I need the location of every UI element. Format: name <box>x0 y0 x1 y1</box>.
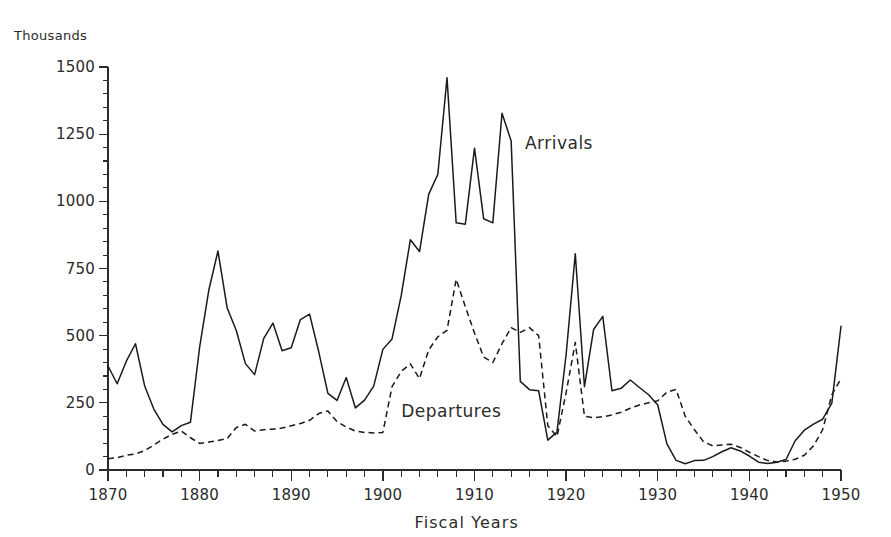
y-tick-label: 1250 <box>25 125 95 143</box>
x-tick-label: 1920 <box>526 486 606 504</box>
immigration-chart-figure: Thousands 0250500750100012501500 1870188… <box>0 0 891 537</box>
chart-plot-area <box>0 0 891 537</box>
series-label-arrivals: Arrivals <box>525 133 593 153</box>
x-axis <box>108 470 841 481</box>
x-axis-title: Fiscal Years <box>415 513 519 532</box>
y-axis <box>99 67 108 470</box>
y-tick-label: 1000 <box>25 192 95 210</box>
x-tick-label: 1910 <box>435 486 515 504</box>
y-tick-label: 0 <box>25 461 95 479</box>
x-tick-label: 1890 <box>251 486 331 504</box>
y-tick-label: 250 <box>25 394 95 412</box>
x-tick-label: 1880 <box>160 486 240 504</box>
y-tick-label: 750 <box>25 260 95 278</box>
series-line-departures <box>108 279 841 462</box>
x-tick-label: 1950 <box>801 486 881 504</box>
y-tick-label: 500 <box>25 327 95 345</box>
x-tick-label: 1870 <box>68 486 148 504</box>
x-tick-label: 1900 <box>343 486 423 504</box>
y-tick-label: 1500 <box>25 58 95 76</box>
series-label-departures: Departures <box>401 401 501 421</box>
x-tick-label: 1940 <box>709 486 789 504</box>
x-tick-label: 1930 <box>618 486 698 504</box>
